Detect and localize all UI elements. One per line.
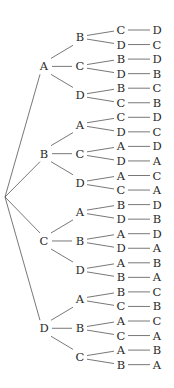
tree-edge-level1 — [51, 74, 73, 87]
permutation-tree-diagram: CDDCBBDDBCBCCBDACDDCAADDACACCADBBDDBAADD… — [0, 0, 174, 388]
tree-edge-level1 — [51, 133, 73, 146]
tree-node-leaf: B — [153, 212, 161, 226]
tree-node-level1: B — [40, 147, 48, 161]
tree-edge-level2 — [87, 147, 114, 151]
tree-node-level1: D — [39, 321, 48, 335]
tree-edge-level2 — [87, 89, 114, 93]
tree-edge-level1 — [51, 249, 73, 262]
tree-edge-level1 — [51, 45, 73, 58]
tree-node-leaf: D — [152, 110, 161, 124]
tree-edge-level2 — [87, 185, 114, 189]
tree-edge-level1 — [51, 307, 73, 320]
tree-node-level3: B — [117, 358, 125, 372]
tree-node-level1: A — [39, 59, 49, 73]
tree-edge-level2 — [87, 177, 114, 181]
tree-node-level2: C — [76, 147, 85, 161]
tree-node-level3: B — [117, 81, 125, 95]
tree-edge-level2 — [87, 155, 114, 159]
tree-node-level3: C — [117, 183, 126, 197]
tree-edge-level2 — [87, 206, 114, 210]
tree-node-level3: B — [117, 52, 125, 66]
tree-node-level3: C — [117, 96, 126, 110]
tree-node-leaf: A — [152, 241, 162, 255]
tree-edge-level2 — [87, 68, 114, 72]
tree-node-level3: D — [116, 241, 125, 255]
tree-node-leaf: A — [152, 270, 162, 284]
tree-node-level2: A — [75, 118, 85, 132]
tree-node-leaf: C — [153, 125, 162, 139]
tree-node-level3: B — [117, 285, 125, 299]
tree-node-leaf: C — [153, 314, 162, 328]
tree-edge-level1 — [51, 220, 73, 233]
tree-edge-level2 — [87, 330, 114, 334]
tree-node-leaf: B — [153, 299, 161, 313]
tree-node-leaf: C — [153, 38, 162, 52]
tree-edge-level1 — [51, 162, 73, 175]
tree-node-level3: D — [116, 154, 125, 168]
tree-node-leaf: D — [152, 198, 161, 212]
tree-edge-level2 — [87, 322, 114, 326]
tree-node-level3: D — [116, 67, 125, 81]
tree-edge-level2 — [87, 97, 114, 101]
tree-node-level3: A — [116, 139, 126, 153]
tree-edge-level2 — [87, 301, 114, 305]
tree-node-level3: A — [116, 227, 126, 241]
tree-node-leaf: D — [152, 23, 161, 37]
tree-node-leaf: A — [152, 183, 162, 197]
tree-node-level3: A — [116, 314, 126, 328]
tree-node-level2: D — [75, 88, 84, 102]
tree-edge-level2 — [87, 60, 114, 64]
tree-node-level3: A — [116, 256, 126, 270]
tree-edge-level1 — [51, 336, 73, 349]
tree-node-leaf: A — [152, 329, 162, 343]
tree-node-leaf: A — [152, 154, 162, 168]
tree-node-leaf: B — [153, 96, 161, 110]
tree-node-level1: C — [40, 234, 49, 248]
tree-edge-level2 — [87, 126, 114, 130]
tree-node-level3: C — [117, 299, 126, 313]
tree-edge-level2 — [87, 351, 114, 355]
tree-node-leaf: B — [153, 343, 161, 357]
tree-edge-level2 — [87, 272, 114, 276]
tree-node-level3: C — [117, 23, 126, 37]
tree-edge-level2 — [87, 243, 114, 247]
tree-node-level3: D — [116, 125, 125, 139]
tree-node-level2: C — [76, 59, 85, 73]
tree-edge-level2 — [87, 118, 114, 122]
tree-node-leaf: B — [153, 67, 161, 81]
tree-node-leaf: B — [153, 256, 161, 270]
tree-node-leaf: D — [152, 227, 161, 241]
tree-node-level2: D — [75, 176, 84, 190]
tree-node-level3: A — [116, 169, 126, 183]
tree-node-level2: B — [76, 321, 84, 335]
tree-node-leaf: D — [152, 139, 161, 153]
tree-node-leaf: C — [153, 285, 162, 299]
tree-node-level2: B — [76, 234, 84, 248]
tree-node-level2: B — [76, 30, 84, 44]
tree-node-level3: D — [116, 212, 125, 226]
tree-node-level2: C — [76, 350, 85, 364]
tree-edge-level2 — [87, 264, 114, 268]
tree-edge-level2 — [87, 359, 114, 363]
tree-node-leaf: C — [153, 169, 162, 183]
tree-edge-level2 — [87, 214, 114, 218]
tree-node-level3: B — [117, 270, 125, 284]
tree-node-level3: C — [117, 110, 126, 124]
tree-node-leaf: A — [152, 358, 162, 372]
tree-node-level2: A — [75, 292, 85, 306]
tree-edge-level2 — [87, 39, 114, 43]
tree-edge-level2 — [87, 293, 114, 297]
tree-node-level2: A — [75, 205, 85, 219]
tree-node-leaf: D — [152, 52, 161, 66]
tree-node-level3: D — [116, 38, 125, 52]
tree-node-level2: D — [75, 263, 84, 277]
tree-node-level3: A — [116, 343, 126, 357]
tree-node-level3: B — [117, 198, 125, 212]
tree-edge-level2 — [87, 235, 114, 239]
tree-edge-level2 — [87, 31, 114, 35]
tree-edge-root — [5, 74, 40, 197]
tree-node-level3: C — [117, 329, 126, 343]
tree-node-leaf: C — [153, 81, 162, 95]
